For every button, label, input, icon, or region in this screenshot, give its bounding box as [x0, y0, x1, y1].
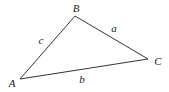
vertex-label-b: B [73, 2, 80, 14]
vertex-label-a: A [8, 77, 16, 89]
triangle-diagram: A B C c a b [0, 0, 169, 92]
side-label-b: b [79, 73, 85, 85]
vertex-label-c: C [154, 55, 162, 67]
side-label-c: c [39, 34, 44, 46]
triangle-abc [20, 16, 148, 79]
side-label-a: a [111, 22, 117, 34]
